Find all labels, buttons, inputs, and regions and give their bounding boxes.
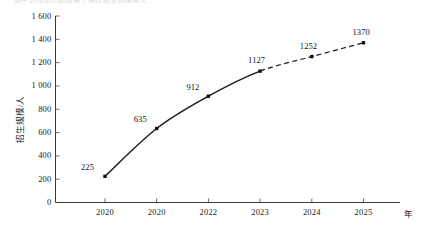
y-axis-tick-label: 1 600 xyxy=(0,12,52,21)
y-axis-tick-label: 1 000 xyxy=(0,81,52,90)
x-axis-title: 年 xyxy=(404,207,413,219)
y-axis-tick-label: 600 xyxy=(0,128,52,137)
x-axis-tick-label: 2025 xyxy=(338,208,390,217)
data-point-label: 1127 xyxy=(248,56,265,65)
y-axis-tick-label: 1 200 xyxy=(0,58,52,67)
series-markers xyxy=(103,41,365,178)
data-point-label: 225 xyxy=(81,163,94,172)
x-axis-tick-label: 2024 xyxy=(286,208,338,217)
x-axis-tick-label: 2020 xyxy=(79,208,131,217)
x-axis-tick-label: 2023 xyxy=(234,208,286,217)
chart-root: 图中折线统计图反映了某校招生规模情况 02004006008001 0001 2… xyxy=(0,0,423,225)
data-point-label: 1252 xyxy=(300,42,317,51)
x-axis-tick-label: 2022 xyxy=(182,208,234,217)
data-point-label: 912 xyxy=(186,83,199,92)
y-axis-tick-label: 200 xyxy=(0,175,52,184)
y-axis-tick-label: 800 xyxy=(0,105,52,114)
data-point-label: 635 xyxy=(134,115,147,124)
y-axis-tick-label: 1 400 xyxy=(0,35,52,44)
y-axis-title: 招生规模/人 xyxy=(13,96,25,143)
data-point-label: 1370 xyxy=(353,28,370,37)
y-axis-tick-label: 0 xyxy=(0,198,52,207)
y-axis-tick-label: 400 xyxy=(0,151,52,160)
y-axis-ticks xyxy=(56,16,60,179)
x-axis-tick-label: 2020 xyxy=(131,208,183,217)
series-line-actual xyxy=(105,71,260,176)
x-axis-ticks xyxy=(105,199,364,203)
